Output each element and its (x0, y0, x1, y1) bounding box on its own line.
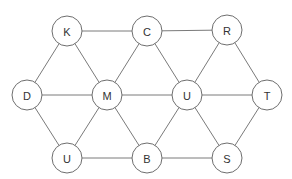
node-label: U (63, 153, 71, 165)
node-label: K (63, 26, 71, 38)
nodes-layer: KCRDMUTUBS (12, 15, 282, 173)
node-label: C (143, 26, 151, 38)
node-label: D (23, 90, 31, 102)
node-label: R (223, 25, 231, 37)
edges-layer (27, 30, 267, 158)
node-c: C (132, 16, 162, 46)
node-b: B (132, 143, 162, 173)
node-d: D (12, 80, 42, 110)
node-t: T (252, 80, 282, 110)
node-label: B (143, 153, 150, 165)
node-k: K (52, 16, 82, 46)
node-m: M (92, 80, 122, 110)
node-s: S (212, 143, 242, 173)
node-label: M (102, 90, 111, 102)
node-u2: U (52, 143, 82, 173)
node-r: R (212, 15, 242, 45)
node-label: T (264, 90, 271, 102)
graph-diagram: KCRDMUTUBS (0, 0, 292, 179)
node-u1: U (172, 80, 202, 110)
graph-svg: KCRDMUTUBS (0, 0, 292, 179)
node-label: S (223, 153, 230, 165)
node-label: U (183, 90, 191, 102)
